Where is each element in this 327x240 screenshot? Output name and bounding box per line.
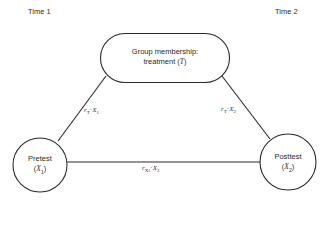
pretest-node: Pretest (X1) xyxy=(13,154,67,177)
var-sub: 2 xyxy=(233,109,236,114)
posttest-node-label: Posttest xyxy=(260,152,316,162)
treatment-text: treatment ( xyxy=(144,57,180,66)
edge-label-treatment-pretest: rT·X1 xyxy=(84,106,99,115)
var-sub: 1 xyxy=(96,110,99,115)
paren-close: ) xyxy=(44,164,47,173)
treatment-node-line2: treatment (T) xyxy=(100,57,230,67)
posttest-node: Posttest (X2) xyxy=(260,152,316,175)
treatment-node-line1: Group membership: xyxy=(100,47,230,57)
paren-close: ) xyxy=(292,162,295,171)
edge-label-pretest-posttest: rX1·X2 xyxy=(142,164,159,173)
var-sub: 2 xyxy=(157,168,160,173)
pretest-node-label: Pretest xyxy=(13,154,67,164)
edge-label-treatment-posttest: rT·X2 xyxy=(221,105,236,114)
posttest-node-symbol: (X2) xyxy=(260,162,316,175)
treatment-close-paren: ) xyxy=(184,57,187,66)
treatment-node: Group membership: treatment (T) xyxy=(100,47,230,67)
pretest-node-symbol: (X1) xyxy=(13,164,67,177)
